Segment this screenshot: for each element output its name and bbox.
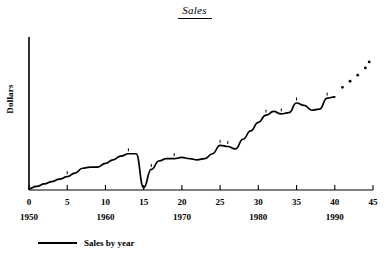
- x-axis-ticks: [29, 185, 373, 190]
- x-year-label: 1960: [96, 212, 115, 222]
- forecast-dot: [341, 86, 344, 89]
- forecast-dot: [364, 67, 367, 70]
- x-tick-label: 35: [292, 197, 302, 207]
- x-tick-label: 40: [330, 197, 340, 207]
- x-tick-label: 0: [27, 197, 32, 207]
- x-axis-year-labels: 19501960197019801990: [20, 212, 344, 222]
- sales-chart: Sales Dollars 051015202530354045 1950196…: [0, 0, 389, 264]
- series-line-sales-by-year: [29, 97, 335, 189]
- x-tick-label: 10: [101, 197, 111, 207]
- forecast-dot: [349, 80, 352, 83]
- x-year-label: 1980: [249, 212, 268, 222]
- x-tick-label: 30: [254, 197, 264, 207]
- x-tick-label: 45: [369, 197, 379, 207]
- plot-area: 051015202530354045 19501960197019801990 …: [0, 0, 389, 264]
- x-year-label: 1990: [326, 212, 345, 222]
- x-year-label: 1950: [20, 212, 39, 222]
- forecast-dot: [368, 61, 371, 64]
- x-tick-label: 15: [139, 197, 149, 207]
- x-year-label: 1970: [173, 212, 192, 222]
- forecast-dot: [356, 74, 359, 77]
- x-tick-label: 25: [216, 197, 226, 207]
- x-tick-label: 20: [177, 197, 187, 207]
- x-axis-tick-labels: 051015202530354045: [27, 197, 378, 207]
- legend-label: Sales by year: [84, 238, 135, 248]
- data-point-markers: [67, 93, 327, 175]
- forecast-dots: [341, 61, 371, 89]
- x-tick-label: 5: [65, 197, 70, 207]
